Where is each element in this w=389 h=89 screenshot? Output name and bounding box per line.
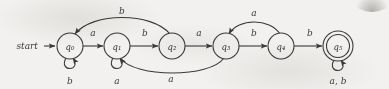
state-label-q5: q₅ (334, 42, 343, 52)
edge-q0-self (64, 58, 75, 69)
edge-label-q3-q1: a (168, 74, 173, 84)
edge-label-q5-self: a, b (330, 76, 347, 86)
edge-label-q4-q5: b (307, 28, 313, 38)
start-label: start (16, 41, 38, 51)
edge-q1-self (111, 58, 122, 69)
edge-label-q1-self: a (114, 76, 119, 86)
edge-label-q4-q3: a (251, 8, 256, 18)
edge-label-q2-q3: a (196, 28, 201, 38)
edge-label-q2-q0: b (119, 6, 125, 16)
edge-label-q0-q1: a (90, 28, 95, 38)
state-label-q0: q₀ (66, 42, 75, 52)
state-label-q4: q₄ (277, 42, 286, 52)
edge-q5-self (332, 60, 343, 71)
edge-label-q0-self: b (67, 76, 73, 86)
edge-label-q1-q2: b (142, 28, 148, 38)
state-label-q2: q₂ (168, 42, 177, 52)
edge-label-q3-q4: b (251, 28, 257, 38)
state-label-q3: q₃ (222, 42, 231, 52)
edge-q3-q1 (120, 58, 224, 73)
edge-q2-q0 (75, 18, 170, 35)
state-label-q1: q₁ (113, 42, 122, 52)
